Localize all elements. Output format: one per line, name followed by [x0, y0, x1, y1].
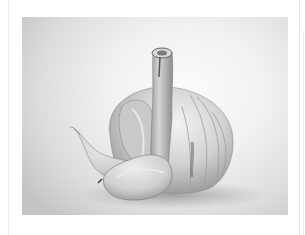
garlic-stem [150, 52, 173, 167]
garlic-illustration [22, 17, 288, 215]
frame-border-right [299, 0, 300, 235]
garlic-photo: Black and white photo of a garlic bulb w… [22, 17, 288, 215]
frame-border-right-outer [303, 30, 304, 235]
frame-border-left [8, 0, 9, 235]
